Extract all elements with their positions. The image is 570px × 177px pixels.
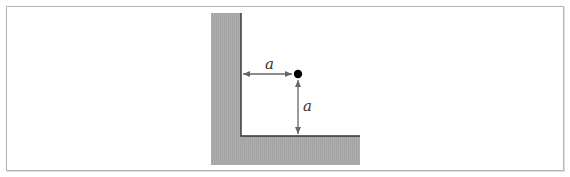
point-marker — [294, 70, 302, 78]
l-shaped-wall — [211, 13, 360, 165]
vertical-distance-label: a — [303, 97, 312, 115]
corner-diagram: a a — [0, 0, 570, 177]
horizontal-distance-label: a — [265, 55, 274, 73]
